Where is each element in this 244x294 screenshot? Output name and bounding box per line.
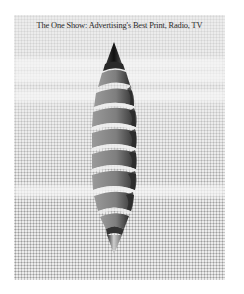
spiral-spindle-icon [14, 15, 225, 280]
page: The One Show: Advertising's Best Print, … [0, 0, 244, 294]
poster-cover: The One Show: Advertising's Best Print, … [14, 15, 225, 280]
